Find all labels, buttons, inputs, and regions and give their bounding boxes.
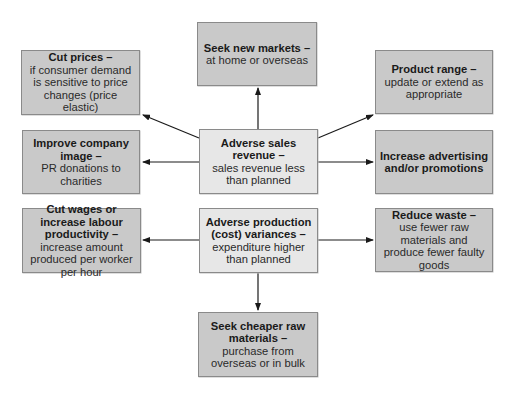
reduce-waste-box: Reduce waste – use fewer raw materials a… — [375, 208, 493, 272]
box-title: Improve company image – — [26, 137, 136, 162]
increase-advertising-box: Increase advertising and/or promotions — [375, 130, 493, 194]
seek-cheaper-raw-materials-box: Seek cheaper raw materials – purchase fr… — [198, 312, 318, 377]
adverse-production-variances-box: Adverse production (cost) variances – ex… — [199, 208, 318, 273]
box-description: at home or overseas — [206, 54, 308, 67]
box-description: use fewer raw materials and produce fewe… — [379, 221, 489, 271]
box-description: update or extend as appropriate — [379, 76, 489, 101]
box-description: increase amount produced per worker per … — [26, 241, 137, 279]
seek-new-markets-box: Seek new markets – at home or overseas — [197, 22, 317, 86]
box-description: purchase from overseas or in bulk — [202, 345, 314, 370]
cut-prices-box: Cut prices – if consumer demand is sensi… — [21, 50, 140, 115]
box-title: Increase advertising and/or promotions — [379, 150, 489, 175]
box-description: PR donations to charities — [26, 162, 136, 187]
arrow-to-product-range — [318, 115, 373, 138]
product-range-box: Product range – update or extend as appr… — [375, 50, 493, 114]
box-title: Adverse production (cost) variances – — [203, 216, 314, 241]
box-title: Product range – — [391, 63, 476, 76]
box-description: expenditure higher than planned — [203, 241, 314, 266]
box-title: Cut prices – — [48, 51, 112, 64]
arrow-to-cut-prices — [143, 115, 199, 138]
box-title: Adverse sales revenue – — [203, 137, 314, 162]
box-title: Reduce waste – — [392, 209, 476, 222]
improve-company-image-box: Improve company image – PR donations to … — [22, 130, 140, 194]
adverse-sales-revenue-box: Adverse sales revenue – sales revenue le… — [199, 129, 318, 194]
box-title: Cut wages or increase labour productivit… — [26, 203, 137, 241]
cut-wages-box: Cut wages or increase labour productivit… — [22, 208, 141, 273]
box-description: if consumer demand is sensitive to price… — [25, 64, 136, 114]
box-title: Seek cheaper raw materials – — [202, 320, 314, 345]
box-description: sales revenue less than planned — [203, 162, 314, 187]
box-title: Seek new markets – — [204, 42, 310, 55]
